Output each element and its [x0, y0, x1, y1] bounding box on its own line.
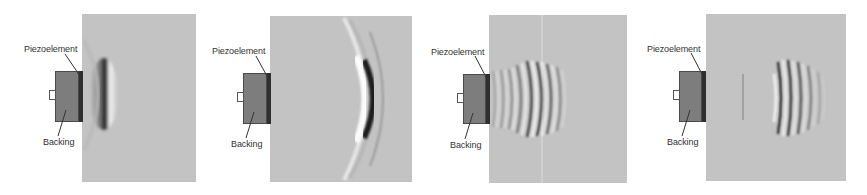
backing-block	[679, 71, 702, 122]
panel-4: Piezoelement Backing	[0, 0, 867, 195]
piezoelement	[702, 71, 706, 122]
backing-label: Backing	[667, 137, 698, 147]
piezoelement-label: Piezoelement	[647, 44, 700, 54]
wave-field-image	[706, 14, 846, 181]
wavefront-graphic	[706, 14, 846, 181]
connector-tab	[673, 90, 680, 100]
transducer-wavefield-figure: Piezoelement Backing Piezoelement Backin…	[0, 0, 867, 195]
